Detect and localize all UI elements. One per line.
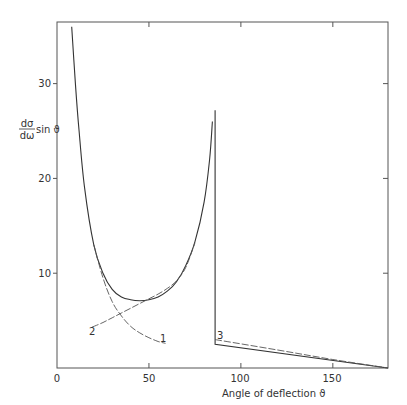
chart: 0 50 100 150 10 20 30 Angle of deflectio…	[0, 0, 407, 405]
x-axis-label: Angle of deflection ϑ	[222, 388, 325, 399]
x-tick-label: 50	[143, 373, 156, 384]
curve-label-1: 1	[160, 333, 166, 344]
y-tick-label: 20	[38, 173, 51, 184]
y-tick-label: 10	[38, 268, 51, 279]
series-line-1	[94, 245, 166, 344]
y-tick-label: 30	[38, 78, 51, 89]
curve-label-3: 3	[217, 330, 223, 341]
y-axis-label-numerator: dσ	[21, 118, 34, 129]
plot-frame	[57, 22, 388, 368]
curve-label-2: 2	[89, 326, 95, 337]
x-tick-label: 150	[322, 373, 341, 384]
y-axis-label: dσ dω sin ϑ	[19, 118, 60, 141]
x-tick-label: 0	[54, 373, 60, 384]
axis-ticks	[53, 22, 388, 368]
series-group	[72, 27, 388, 368]
y-axis-label-suffix: sin ϑ	[36, 124, 60, 135]
y-axis-label-denominator: dω	[20, 130, 35, 141]
series-line-total-backward	[215, 110, 388, 368]
series-line-2	[92, 243, 195, 327]
x-tick-label: 100	[230, 373, 249, 384]
series-line-total	[72, 27, 213, 301]
